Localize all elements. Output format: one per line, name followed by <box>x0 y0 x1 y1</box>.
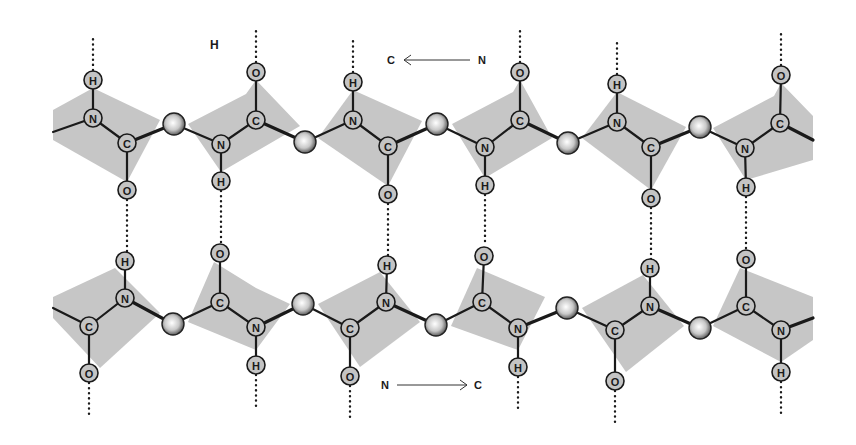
bottom-direction-c-label: C <box>474 379 482 391</box>
atom-label: H <box>613 79 621 91</box>
atom-label: N <box>777 325 785 337</box>
atom-label: H <box>89 75 97 87</box>
atom-label: N <box>121 293 129 305</box>
atom-label: H <box>217 176 225 188</box>
outer-hydrogen-bond-stubs <box>89 27 781 426</box>
atom-label: C <box>478 297 486 309</box>
atom-label: O <box>742 254 751 266</box>
alpha-carbon-atom <box>557 132 579 154</box>
alpha-carbon-atom <box>292 293 314 315</box>
bottom-direction-arrow-icon <box>397 380 467 390</box>
atom-label: H <box>121 256 129 268</box>
atom-label: C <box>346 323 354 335</box>
atom-label: O <box>346 371 355 383</box>
atom-label: C <box>776 118 784 130</box>
atom-label: C <box>516 115 524 127</box>
atom-label: C <box>384 141 392 153</box>
alpha-carbon-atom <box>425 314 447 336</box>
atom-label: C <box>252 115 260 127</box>
peptide-plane <box>188 262 290 350</box>
atom-label: N <box>514 323 522 335</box>
atom-label: O <box>777 70 786 82</box>
top-direction-n-label: N <box>478 54 486 66</box>
atom-label: H <box>777 367 785 379</box>
alpha-carbon-atom <box>426 113 448 135</box>
atom-label: O <box>384 189 393 201</box>
atom-label: O <box>647 193 656 205</box>
beta-sheet-diagram: NCNCNCNCNCNCHOHOHOHOHOHOCNCNCNCNCNCNHOOH… <box>0 0 856 445</box>
atom-label: N <box>252 322 260 334</box>
atom-label: N <box>349 115 357 127</box>
atom-label: C <box>123 138 131 150</box>
atom-label: N <box>382 297 390 309</box>
atom-label: O <box>611 376 620 388</box>
atom-label: O <box>85 368 94 380</box>
atom-label: O <box>516 67 525 79</box>
peptide-plane <box>582 275 684 372</box>
peptide-plane <box>188 80 300 172</box>
atom-label: H <box>349 77 357 89</box>
atom-label: C <box>611 325 619 337</box>
atom-label: N <box>613 117 621 129</box>
atom-label: N <box>646 301 654 313</box>
alpha-carbon-atom <box>689 116 711 138</box>
atom-label: H <box>481 180 489 192</box>
peptide-plane <box>53 268 160 368</box>
atom-label: N <box>217 139 225 151</box>
atom-label: N <box>481 142 489 154</box>
atom-label: C <box>216 297 224 309</box>
stray-h-label: H <box>210 38 219 52</box>
bottom-direction-n-label: N <box>381 379 389 391</box>
alpha-carbon-atom <box>163 113 185 135</box>
alpha-carbon-atom <box>162 313 184 335</box>
atom-label: H <box>252 360 260 372</box>
atom-label: O <box>123 185 132 197</box>
atom-label: H <box>514 362 522 374</box>
top-direction-c-label: C <box>387 54 395 66</box>
peptide-plane <box>451 268 545 350</box>
atom-label: C <box>85 321 93 333</box>
top-direction-arrow-icon <box>404 55 470 65</box>
atom-label: N <box>741 143 749 155</box>
alpha-carbon-atom <box>294 131 316 153</box>
atom-label: O <box>216 248 225 260</box>
atom-label: H <box>383 260 391 272</box>
atom-label: H <box>742 182 750 194</box>
atom-label: C <box>742 301 750 313</box>
atoms: NCNCNCNCNCNCHOHOHOHOHOHOCNCNCNCNCNCNHOOH… <box>80 63 790 390</box>
peptide-plane <box>582 92 686 190</box>
alpha-carbon-atom <box>556 297 578 319</box>
atom-label: O <box>480 251 489 263</box>
atom-label: H <box>646 263 654 275</box>
alpha-carbon-atom <box>689 317 711 339</box>
atom-label: N <box>89 113 97 125</box>
atom-label: C <box>647 142 655 154</box>
atom-label: O <box>252 67 261 79</box>
